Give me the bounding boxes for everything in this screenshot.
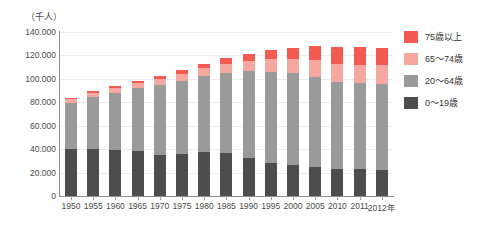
bar-column[interactable] — [109, 86, 121, 196]
bar-segment[interactable] — [354, 65, 366, 83]
x-axis-tick-mark — [293, 196, 294, 200]
bar-segment[interactable] — [287, 73, 299, 165]
x-axis-tick-label: 1970 — [150, 201, 169, 211]
bar-column[interactable] — [331, 47, 343, 196]
x-axis-tick-mark — [138, 196, 139, 200]
bar-segment[interactable] — [154, 85, 166, 155]
bar-segment[interactable] — [309, 46, 321, 60]
bar-segment[interactable] — [331, 82, 343, 169]
legend-color-swatch — [404, 31, 418, 43]
bar-column[interactable] — [220, 58, 232, 196]
bar-segment[interactable] — [198, 68, 210, 76]
bar-segment[interactable] — [243, 71, 255, 158]
x-axis-tick-mark — [337, 196, 338, 200]
bar-segment[interactable] — [243, 54, 255, 61]
bar-segment[interactable] — [265, 163, 277, 196]
bar-column[interactable] — [376, 48, 388, 196]
bar-segment[interactable] — [309, 77, 321, 168]
bar-segment[interactable] — [87, 97, 99, 149]
bar-segment[interactable] — [287, 48, 299, 59]
bar-segment[interactable] — [198, 152, 210, 196]
bar-column[interactable] — [176, 70, 188, 196]
x-axis-tick-mark — [315, 196, 316, 200]
y-axis-tick-label: 120.000 — [0, 50, 56, 60]
legend-color-swatch — [404, 97, 418, 109]
bar-segment[interactable] — [265, 50, 277, 58]
x-axis-tick-mark — [160, 196, 161, 200]
bar-segment[interactable] — [132, 88, 144, 151]
y-axis-tick-label: 40.000 — [0, 144, 56, 154]
x-axis-tick-label: 2012年 — [368, 201, 396, 213]
bar-segment[interactable] — [132, 151, 144, 196]
x-axis-tick-mark — [271, 196, 272, 200]
bar-column[interactable] — [132, 81, 144, 196]
x-axis-tick-mark — [360, 196, 361, 200]
x-axis-tick-label: 1985 — [217, 201, 236, 211]
gridline — [60, 32, 393, 33]
bar-segment[interactable] — [220, 64, 232, 73]
y-axis-tick-label: 80.000 — [0, 97, 56, 107]
bar-column[interactable] — [87, 91, 99, 196]
legend-item-label: 20～64歳 — [425, 74, 463, 87]
x-axis-tick-mark — [182, 196, 183, 200]
bar-segment[interactable] — [331, 47, 343, 64]
bar-segment[interactable] — [65, 149, 77, 196]
bar-column[interactable] — [65, 98, 77, 196]
legend-color-swatch — [404, 53, 418, 65]
legend-item[interactable]: 75歳以上 — [404, 30, 463, 43]
bar-column[interactable] — [154, 76, 166, 196]
x-axis-tick-mark — [93, 196, 94, 200]
bar-segment[interactable] — [220, 73, 232, 153]
bar-segment[interactable] — [220, 153, 232, 196]
bar-column[interactable] — [265, 50, 277, 196]
legend-item[interactable]: 20～64歳 — [404, 74, 463, 87]
bar-segment[interactable] — [376, 48, 388, 66]
bar-column[interactable] — [198, 64, 210, 196]
bar-segment[interactable] — [243, 61, 255, 71]
x-axis-tick-label: 1960 — [106, 201, 125, 211]
bar-segment[interactable] — [65, 103, 77, 150]
x-axis-tick-mark — [226, 196, 227, 200]
bar-column[interactable] — [243, 54, 255, 196]
bar-segment[interactable] — [265, 59, 277, 72]
bar-segment[interactable] — [354, 83, 366, 170]
legend-item[interactable]: 0～19歳 — [404, 96, 463, 109]
bar-segment[interactable] — [176, 154, 188, 196]
bar-segment[interactable] — [309, 60, 321, 77]
bar-segment[interactable] — [331, 169, 343, 196]
legend-item[interactable]: 65～74歳 — [404, 52, 463, 65]
bar-segment[interactable] — [176, 81, 188, 154]
bar-segment[interactable] — [243, 158, 255, 196]
bar-segment[interactable] — [376, 170, 388, 196]
bar-segment[interactable] — [109, 150, 121, 196]
x-axis-tick-label: 1990 — [239, 201, 258, 211]
bar-column[interactable] — [309, 46, 321, 196]
bar-segment[interactable] — [287, 59, 299, 73]
x-axis-tick-label: 1975 — [173, 201, 192, 211]
bar-segment[interactable] — [331, 64, 343, 82]
bar-segment[interactable] — [354, 47, 366, 64]
bar-segment[interactable] — [309, 167, 321, 196]
bar-segment[interactable] — [198, 76, 210, 152]
x-axis-tick-label: 2010 — [328, 201, 347, 211]
y-axis-tick-label: 60.000 — [0, 121, 56, 131]
bar-segment[interactable] — [265, 72, 277, 163]
bar-segment[interactable] — [376, 84, 388, 170]
bar-segment[interactable] — [154, 155, 166, 196]
bar-segment[interactable] — [87, 149, 99, 196]
bar-segment[interactable] — [376, 65, 388, 83]
bar-segment[interactable] — [176, 74, 188, 81]
bar-segment[interactable] — [109, 93, 121, 150]
bar-column[interactable] — [287, 48, 299, 196]
bar-column[interactable] — [354, 47, 366, 196]
x-axis-tick-label: 1980 — [195, 201, 214, 211]
bar-segment[interactable] — [287, 165, 299, 196]
y-axis-unit-label: （千人） — [26, 10, 62, 23]
bar-segment[interactable] — [354, 169, 366, 196]
x-axis-tick-mark — [249, 196, 250, 200]
legend-color-swatch — [404, 75, 418, 87]
legend-item-label: 65～74歳 — [425, 52, 463, 65]
x-axis-tick-mark — [382, 196, 383, 200]
legend-item-label: 0～19歳 — [425, 96, 458, 109]
x-axis-tick-mark — [115, 196, 116, 200]
